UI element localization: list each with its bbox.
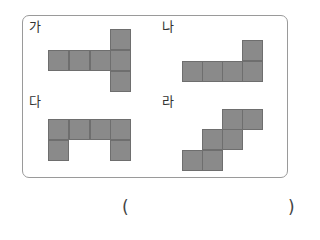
figure-ga-cell [110, 71, 131, 92]
figure-na-cell [202, 61, 223, 82]
figure-label-ra: 라 [162, 95, 174, 109]
figure-da-cell [110, 119, 131, 140]
figure-da-cell [48, 119, 69, 140]
answer-close-paren: ) [288, 197, 295, 217]
figure-ra-cell [222, 129, 243, 150]
figure-label-da: 다 [29, 95, 41, 109]
figure-da-cell [48, 140, 69, 161]
figure-ra-cell [202, 150, 223, 171]
figure-label-ga: 가 [29, 20, 41, 34]
figure-ra-cell [202, 129, 223, 150]
figure-na-cell [242, 40, 263, 61]
figure-da-cell [90, 119, 111, 140]
figure-na-cell [222, 61, 243, 82]
figure-ra-cell [182, 150, 203, 171]
figure-label-na: 나 [162, 20, 174, 34]
figure-ga-cell [90, 50, 111, 71]
figure-ga-cell [110, 50, 131, 71]
answer-open-paren: ( [122, 197, 129, 217]
figure-na-cell [182, 61, 203, 82]
figure-ga-cell [69, 50, 90, 71]
figure-ga-cell [48, 50, 69, 71]
figure-na-cell [242, 61, 263, 82]
answer-blank[interactable] [135, 196, 283, 218]
figure-ra-cell [242, 109, 263, 130]
figure-da-cell [69, 119, 90, 140]
figure-da-cell [110, 140, 131, 161]
figure-ra-cell [222, 109, 243, 130]
figure-ga-cell [110, 29, 131, 50]
